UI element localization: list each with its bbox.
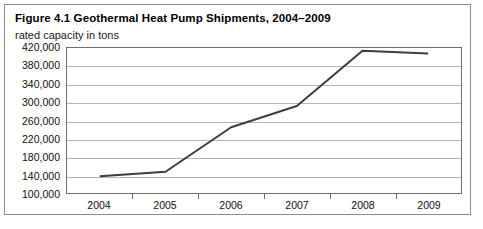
y-tick-label: 220,000 — [22, 133, 60, 145]
x-axis: 200420052006200720082009 — [66, 199, 462, 215]
y-tick-label: 300,000 — [22, 96, 60, 108]
figure-container: Figure 4.1 Geothermal Heat Pump Shipment… — [4, 4, 471, 215]
y-tick-label: 340,000 — [22, 78, 60, 90]
x-tick-label: 2004 — [87, 199, 110, 211]
figure-subtitle: rated capacity in tons — [15, 29, 119, 41]
x-tick-label: 2009 — [417, 199, 440, 211]
y-tick-label: 420,000 — [22, 41, 60, 53]
series-polyline — [100, 51, 428, 177]
x-tick-label: 2007 — [285, 199, 308, 211]
figure-title: Figure 4.1 Geothermal Heat Pump Shipment… — [15, 12, 331, 24]
x-tick-label: 2008 — [351, 199, 374, 211]
series-line — [67, 48, 461, 193]
y-tick-label: 180,000 — [22, 151, 60, 163]
y-tick-label: 100,000 — [22, 188, 60, 200]
y-axis: 420,000380,000340,000300,000260,000220,0… — [15, 47, 63, 194]
plot-area — [66, 47, 462, 194]
y-tick-label: 260,000 — [22, 115, 60, 127]
x-tick-label: 2006 — [219, 199, 242, 211]
y-tick-label: 140,000 — [22, 170, 60, 182]
x-tick-label: 2005 — [153, 199, 176, 211]
y-tick-label: 380,000 — [22, 59, 60, 71]
chart: 420,000380,000340,000300,000260,000220,0… — [15, 47, 462, 207]
